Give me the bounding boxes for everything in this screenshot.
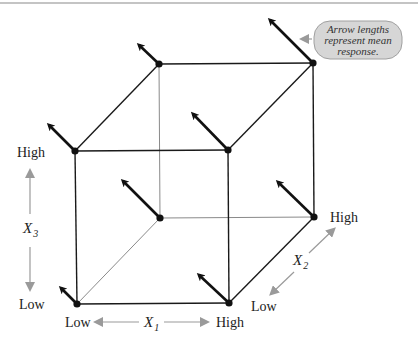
edge-top-left-depth [75, 64, 159, 151]
x3-subscript: 3 [32, 228, 38, 239]
edge-back-left-vertical [159, 64, 160, 218]
edge-back-bottom [160, 217, 314, 218]
vertex-back-bottom-right [310, 213, 317, 220]
response-arrow-back-top-right [270, 20, 313, 63]
edge-back-right-vertical [313, 63, 314, 217]
x2-low-label: Low [251, 299, 278, 314]
diagram-canvas: Arrow lengths represent mean response. H… [0, 0, 418, 346]
x1-axis: Low X1 High [65, 314, 244, 333]
callout-line-3: response. [337, 45, 378, 57]
x2-subscript: 2 [303, 260, 308, 271]
vertex-front-top-left [71, 147, 78, 154]
response-arrow-front-top-left [49, 125, 75, 151]
vertex-back-top-right [309, 59, 316, 66]
edge-front-left [75, 151, 77, 304]
edge-bottom-left-depth [77, 218, 160, 304]
edge-back-top [159, 63, 313, 64]
callout: Arrow lengths represent mean response. [303, 21, 402, 59]
vertex-back-bottom-left [156, 214, 163, 221]
vertex-back-top-left [155, 60, 162, 67]
response-arrow-back-bottom-left [123, 181, 160, 218]
vertex-front-bottom-right [225, 299, 232, 306]
vertex-front-bottom-left [73, 300, 80, 307]
factorial-cube-diagram: Arrow lengths represent mean response. H… [0, 0, 418, 346]
x3-low-label: Low [19, 297, 46, 312]
x3-var: X [22, 220, 33, 236]
x3-axis-label: X3 [22, 220, 38, 239]
x3-high-label: High [17, 145, 45, 160]
response-arrow-front-top-right [193, 114, 228, 150]
x2-axis: High X2 Low [251, 210, 358, 314]
x3-axis: High X3 Low [17, 145, 46, 312]
x1-subscript: 1 [154, 322, 159, 333]
response-arrow-back-bottom-right [278, 182, 314, 217]
x2-up-arrow [309, 230, 333, 253]
edge-front-right [228, 150, 229, 303]
edge-front-top [75, 150, 228, 151]
x1-high-label: High [216, 315, 244, 330]
vertex-front-top-right [224, 146, 231, 153]
edge-top-right-depth [228, 63, 313, 150]
x1-low-label: Low [65, 315, 92, 330]
x2-var: X [292, 252, 303, 268]
response-arrow-front-bottom-right [199, 275, 229, 303]
edge-front-bottom [77, 303, 229, 304]
response-arrow-back-top-left [139, 45, 159, 64]
x2-axis-label: X2 [292, 252, 308, 271]
x2-down-arrow [272, 272, 294, 293]
x2-high-label: High [330, 210, 358, 225]
x1-var: X [143, 314, 154, 330]
x1-axis-label: X1 [143, 314, 159, 333]
